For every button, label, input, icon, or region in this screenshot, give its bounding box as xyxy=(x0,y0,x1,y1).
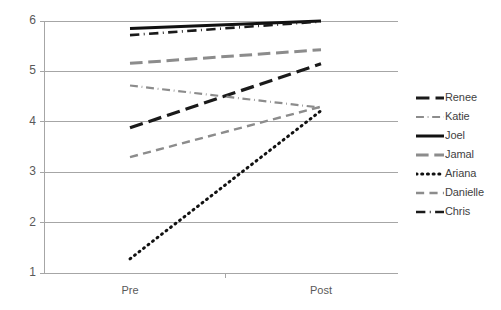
legend-swatch-renee-icon xyxy=(416,92,444,104)
legend-swatch-katie-icon xyxy=(416,111,444,123)
legend-label: Renee xyxy=(445,88,477,107)
legend-swatch-chris-icon xyxy=(416,206,444,218)
legend-item-renee[interactable]: Renee xyxy=(416,88,501,107)
legend-swatch-joel-icon xyxy=(416,130,444,142)
y-tick-label: 3 xyxy=(14,164,36,178)
chart-legend: ReneeKatieJoelJamalArianaDanielleChris xyxy=(416,88,501,221)
x-tick-label-pre: Pre xyxy=(100,284,160,296)
legend-label: Joel xyxy=(445,126,465,145)
chart-container: 654321 PrePost ReneeKatieJoelJamalAriana… xyxy=(0,0,501,310)
series-line-jamal xyxy=(130,50,321,64)
y-tick-label: 2 xyxy=(14,215,36,229)
legend-item-ariana[interactable]: Ariana xyxy=(416,164,501,183)
legend-item-katie[interactable]: Katie xyxy=(416,107,501,126)
legend-item-jamal[interactable]: Jamal xyxy=(416,145,501,164)
axis-lines-group xyxy=(40,21,226,278)
legend-label: Ariana xyxy=(445,164,476,183)
y-tick-label: 6 xyxy=(14,13,36,27)
data-series-group xyxy=(130,21,321,259)
y-tick-label: 4 xyxy=(14,114,36,128)
legend-item-joel[interactable]: Joel xyxy=(416,126,501,145)
series-line-renee xyxy=(130,64,321,128)
legend-label: Katie xyxy=(445,107,470,126)
y-tick-label: 5 xyxy=(14,63,36,77)
legend-label: Danielle xyxy=(445,183,484,202)
y-tick-label: 1 xyxy=(14,265,36,279)
legend-label: Jamal xyxy=(445,145,474,164)
legend-item-danielle[interactable]: Danielle xyxy=(416,183,501,202)
gridlines-group xyxy=(44,21,398,273)
legend-swatch-ariana-icon xyxy=(416,168,444,180)
legend-swatch-jamal-icon xyxy=(416,149,444,161)
legend-item-chris[interactable]: Chris xyxy=(416,202,501,221)
x-tick-label-post: Post xyxy=(291,284,351,296)
legend-label: Chris xyxy=(445,202,470,221)
legend-swatch-danielle-icon xyxy=(416,187,444,199)
